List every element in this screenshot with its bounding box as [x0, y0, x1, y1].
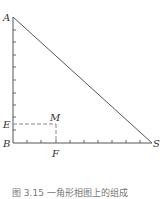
label-B: B: [2, 138, 10, 149]
triangle-phase-diagram: A B S E M F 图 3.15 一角形相图上的组成: [0, 0, 165, 199]
label-F: F: [51, 148, 60, 159]
label-A: A: [2, 12, 10, 23]
figure-caption: 图 3.15 一角形相图上的组成: [12, 187, 128, 198]
composition-guides: [13, 124, 56, 143]
label-E: E: [2, 119, 11, 130]
label-S: S: [153, 138, 160, 149]
label-M: M: [49, 112, 61, 123]
